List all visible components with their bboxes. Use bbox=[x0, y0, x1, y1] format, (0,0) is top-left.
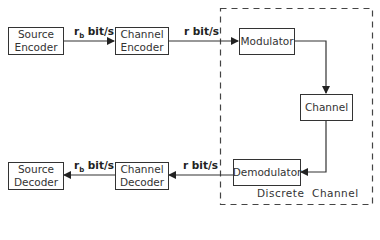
edge-modulator-to-channel bbox=[294, 41, 326, 93]
block-label-line1: Source bbox=[15, 28, 58, 41]
block-label: Channel bbox=[305, 101, 348, 114]
edge-label-r-top: r bit/s bbox=[184, 25, 219, 37]
block-label-line2: Decoder bbox=[14, 176, 58, 189]
block-channel: Channel bbox=[300, 94, 353, 121]
block-source-encoder: SourceEncoder bbox=[8, 27, 64, 55]
block-demodulator: Demodulator bbox=[233, 159, 301, 186]
block-label: Demodulator bbox=[233, 166, 302, 179]
block-channel-decoder: ChannelDecoder bbox=[115, 162, 169, 190]
edge-channel-to-demodulator bbox=[301, 120, 326, 172]
block-label-line2: Encoder bbox=[15, 41, 58, 54]
edge-label-rb-top: rb bit/s bbox=[74, 25, 114, 40]
block-label-line2: Decoder bbox=[120, 176, 164, 189]
discrete-channel-caption: Discrete Channel bbox=[257, 187, 359, 199]
block-label-line2: Encoder bbox=[120, 41, 163, 54]
block-label-line1: Source bbox=[14, 163, 58, 176]
block-channel-encoder: ChannelEncoder bbox=[115, 27, 169, 55]
edge-label-rb-bottom: rb bit/s bbox=[74, 159, 114, 174]
block-label: Modulator bbox=[240, 35, 293, 48]
block-label-line1: Channel bbox=[120, 163, 164, 176]
edge-label-r-bottom: r bit/s bbox=[183, 159, 218, 171]
block-modulator: Modulator bbox=[239, 28, 295, 55]
block-source-decoder: SourceDecoder bbox=[8, 162, 64, 190]
block-label-line1: Channel bbox=[120, 28, 163, 41]
